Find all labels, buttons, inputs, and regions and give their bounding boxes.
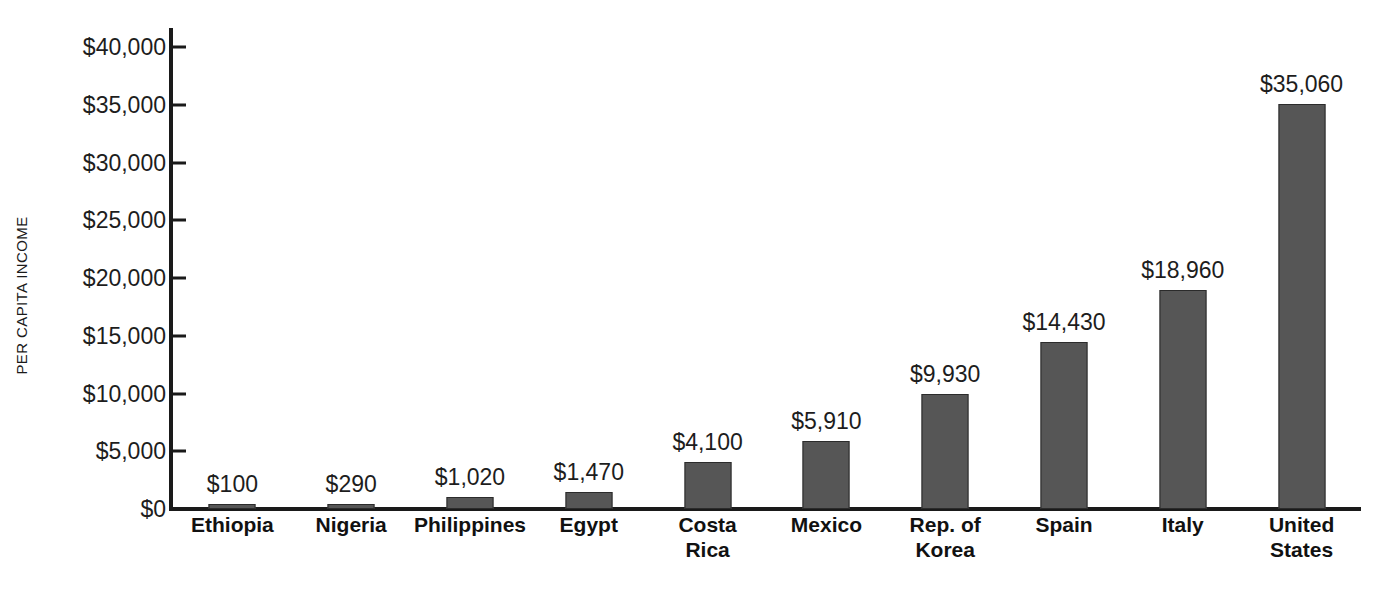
y-tick-label: $25,000 bbox=[18, 207, 166, 234]
x-axis-category-labels: EthiopiaNigeriaPhilippinesEgyptCostaRica… bbox=[173, 513, 1361, 591]
y-tick-mark bbox=[173, 219, 186, 222]
x-category-label: Nigeria bbox=[292, 513, 411, 538]
x-category-label: Egypt bbox=[529, 513, 648, 538]
bar-value-label: $9,930 bbox=[910, 361, 980, 388]
x-category-label: UnitedStates bbox=[1242, 513, 1361, 563]
y-tick-label: $35,000 bbox=[18, 91, 166, 118]
x-category-label: Ethiopia bbox=[173, 513, 292, 538]
bar-value-label: $100 bbox=[207, 471, 258, 498]
y-tick-mark bbox=[173, 46, 186, 49]
bar[interactable] bbox=[565, 492, 612, 509]
x-category-label: Philippines bbox=[411, 513, 530, 538]
x-category-label: CostaRica bbox=[648, 513, 767, 563]
y-tick-label: $10,000 bbox=[18, 380, 166, 407]
bar[interactable] bbox=[803, 441, 850, 509]
bar-group: $5,910 bbox=[767, 28, 886, 509]
bar-group: $1,020 bbox=[411, 28, 530, 509]
bar-chart: PER CAPITA INCOME $0$5,000$10,000$15,000… bbox=[0, 0, 1386, 591]
bar-group: $35,060 bbox=[1242, 28, 1361, 509]
y-tick-label: $0 bbox=[18, 496, 166, 523]
bar-value-label: $14,430 bbox=[1022, 309, 1105, 336]
y-tick-mark bbox=[173, 161, 186, 164]
bar[interactable] bbox=[209, 504, 256, 509]
y-tick-label: $30,000 bbox=[18, 149, 166, 176]
bar[interactable] bbox=[1040, 342, 1087, 509]
x-category-label: Rep. ofKorea bbox=[886, 513, 1005, 563]
x-category-label: Mexico bbox=[767, 513, 886, 538]
bar-group: $100 bbox=[173, 28, 292, 509]
x-category-label: Italy bbox=[1123, 513, 1242, 538]
bar[interactable] bbox=[684, 462, 731, 509]
bar-group: $4,100 bbox=[648, 28, 767, 509]
y-tick-mark bbox=[173, 277, 186, 280]
bar-value-label: $290 bbox=[326, 471, 377, 498]
y-tick-mark bbox=[173, 103, 186, 106]
y-tick-label: $40,000 bbox=[18, 34, 166, 61]
x-category-label: Spain bbox=[1005, 513, 1124, 538]
bar[interactable] bbox=[1159, 290, 1206, 509]
bar-group: $18,960 bbox=[1123, 28, 1242, 509]
bar-group: $9,930 bbox=[886, 28, 1005, 509]
bar[interactable] bbox=[446, 497, 493, 509]
bar-value-label: $18,960 bbox=[1141, 257, 1224, 284]
plot-area: $100$290$1,020$1,470$4,100$5,910$9,930$1… bbox=[173, 28, 1361, 509]
bar-group: $290 bbox=[292, 28, 411, 509]
y-tick-label: $15,000 bbox=[18, 322, 166, 349]
bar-value-label: $1,470 bbox=[554, 459, 624, 486]
bar-group: $14,430 bbox=[1005, 28, 1124, 509]
y-tick-mark bbox=[173, 392, 186, 395]
bar-group: $1,470 bbox=[529, 28, 648, 509]
y-tick-label: $5,000 bbox=[18, 438, 166, 465]
bar[interactable] bbox=[922, 394, 969, 509]
bar-value-label: $5,910 bbox=[791, 408, 861, 435]
bar-value-label: $4,100 bbox=[672, 429, 742, 456]
bar[interactable] bbox=[1278, 104, 1325, 509]
bar-value-label: $35,060 bbox=[1260, 71, 1343, 98]
bar-value-label: $1,020 bbox=[435, 464, 505, 491]
y-tick-mark bbox=[173, 334, 186, 337]
bar[interactable] bbox=[328, 504, 375, 509]
y-tick-mark bbox=[173, 450, 186, 453]
y-axis-tick-labels: $0$5,000$10,000$15,000$20,000$25,000$30,… bbox=[0, 0, 166, 591]
y-tick-label: $20,000 bbox=[18, 265, 166, 292]
